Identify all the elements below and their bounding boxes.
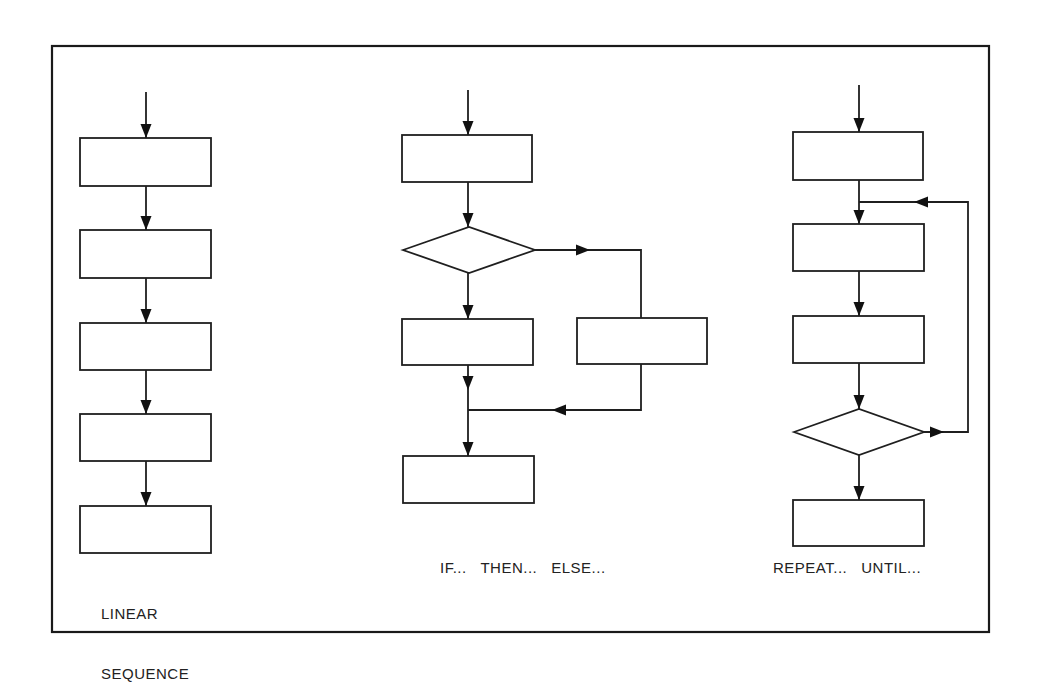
linear-process-box-1 bbox=[80, 138, 211, 186]
arrowhead-icon bbox=[930, 427, 944, 438]
repeat-process-box-3 bbox=[793, 316, 924, 363]
arrowhead-icon bbox=[141, 492, 152, 506]
if-then-else-flowchart bbox=[402, 90, 707, 503]
ite-process-box-3 bbox=[577, 318, 707, 364]
arrowhead-icon bbox=[854, 395, 865, 409]
arrowhead-icon bbox=[854, 118, 865, 132]
ite-decision-diamond-1 bbox=[403, 227, 535, 273]
linear-sequence-label: LINEAR SEQUENCE bbox=[101, 564, 189, 686]
arrowhead-icon bbox=[854, 486, 865, 500]
arrowhead-icon bbox=[141, 309, 152, 323]
arrowhead-icon bbox=[552, 405, 566, 416]
arrowhead-icon bbox=[463, 213, 474, 227]
linear-process-box-5 bbox=[80, 506, 211, 553]
arrowhead-icon bbox=[141, 124, 152, 138]
arrowhead-icon bbox=[141, 216, 152, 230]
linear-label-line1: LINEAR bbox=[101, 604, 189, 624]
if-then-else-label: IF... THEN... ELSE... bbox=[440, 558, 606, 578]
arrowhead-icon bbox=[141, 400, 152, 414]
arrowhead-icon bbox=[463, 121, 474, 135]
repeat-until-label: REPEAT... UNTIL... bbox=[773, 558, 921, 578]
arrowhead-icon bbox=[854, 302, 865, 316]
repeat-until-flowchart bbox=[793, 85, 968, 546]
repeat-decision-diamond-1 bbox=[794, 409, 924, 455]
ite-process-box-4 bbox=[403, 456, 534, 503]
ite-process-box-2 bbox=[402, 319, 533, 365]
ite-connector-6 bbox=[468, 364, 641, 410]
arrowhead-icon bbox=[914, 197, 928, 208]
linear-process-box-3 bbox=[80, 323, 211, 370]
arrowhead-icon bbox=[576, 245, 590, 256]
repeat-process-box-1 bbox=[793, 132, 923, 180]
linear-process-box-4 bbox=[80, 414, 211, 461]
arrowhead-icon bbox=[463, 305, 474, 319]
ite-process-box-1 bbox=[402, 135, 532, 182]
linear-label-line2: SEQUENCE bbox=[101, 664, 189, 684]
arrowhead-icon bbox=[463, 376, 474, 390]
repeat-process-box-4 bbox=[793, 500, 924, 546]
ite-connector-4 bbox=[535, 250, 641, 318]
repeat-process-box-2 bbox=[793, 224, 924, 271]
arrowhead-icon bbox=[854, 210, 865, 224]
linear-process-box-2 bbox=[80, 230, 211, 278]
linear-sequence-flowchart bbox=[80, 92, 211, 553]
arrowhead-icon bbox=[463, 442, 474, 456]
